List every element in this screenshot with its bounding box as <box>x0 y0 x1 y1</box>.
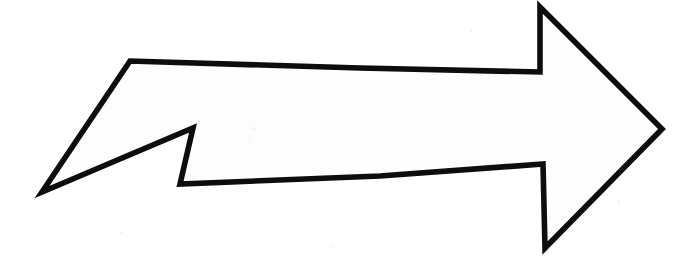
arrow-right-icon <box>42 7 662 248</box>
image-canvas <box>0 0 699 268</box>
arrow-illustration <box>0 0 699 268</box>
